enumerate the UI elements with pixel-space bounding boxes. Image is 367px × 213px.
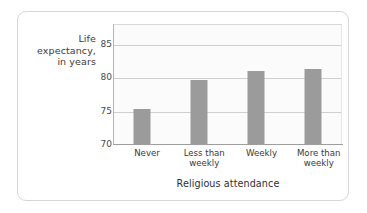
y-axis-title-line-3: in years	[20, 56, 96, 68]
y-axis-title-line-2: expectancy,	[20, 45, 96, 57]
bar-less-than-weekly[interactable]	[190, 80, 207, 144]
bar-slot-never	[113, 24, 170, 144]
x-axis-line	[113, 144, 343, 145]
x-tick-label-more-than-weekly-line-2: weekly	[285, 158, 353, 168]
chart-figure: Life expectancy, in years 85 80 75 70 Ne…	[0, 0, 367, 213]
bar-slot-less-than-weekly	[170, 24, 227, 144]
bar-more-than-weekly[interactable]	[305, 69, 322, 144]
bar-weekly[interactable]	[248, 71, 265, 144]
y-tick-label-75: 75	[92, 106, 112, 116]
bar-slot-more-than-weekly	[285, 24, 342, 144]
y-axis-title: Life expectancy, in years	[20, 33, 96, 68]
y-tick-label-85: 85	[92, 39, 112, 49]
bar-slot-weekly	[228, 24, 285, 144]
bar-never[interactable]	[133, 109, 150, 144]
x-axis-title: Religious attendance	[113, 178, 343, 189]
y-tick-label-70: 70	[92, 139, 112, 149]
bar-series	[113, 24, 342, 144]
x-tick-label-more-than-weekly: More than weekly	[285, 148, 353, 169]
y-tick-label-80: 80	[92, 72, 112, 82]
x-tick-label-less-than-weekly-line-2: weekly	[170, 158, 238, 168]
y-axis-title-line-1: Life	[20, 33, 96, 45]
x-tick-label-more-than-weekly-line-1: More than	[285, 148, 353, 158]
